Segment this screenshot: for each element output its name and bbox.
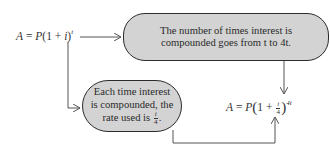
box-times-compounded: The number of times interest is compound…	[123, 13, 329, 61]
formula-quarterly-lhs: A	[226, 101, 233, 113]
box-times-compounded-line2: compounded goes from t to 4t.	[161, 37, 291, 50]
equals-sign: =	[233, 101, 245, 113]
fraction-denominator: 4	[277, 109, 281, 116]
fraction-i-over-4: i4	[276, 101, 280, 116]
box-rate-used: Each time interest is compounded, the ra…	[82, 80, 182, 132]
exponent: t	[71, 28, 73, 36]
box-rate-used-line1: Each time interest	[94, 86, 170, 99]
fraction-denominator: 4	[154, 119, 158, 126]
formula-original-lhs: A	[16, 30, 23, 42]
box-times-compounded-line1: The number of times interest is	[160, 25, 292, 38]
exponent: 4t	[286, 99, 291, 107]
equals-sign: =	[23, 30, 35, 42]
period: .	[159, 112, 162, 123]
box-rate-used-line2: is compounded, the	[91, 99, 174, 112]
one-plus: 1 +	[257, 101, 275, 113]
open-paren: (1 +	[42, 30, 64, 42]
rate-prefix: rate used is	[103, 112, 153, 123]
open-paren: (	[252, 99, 257, 115]
formula-original: A = P(1 + i)t	[16, 29, 73, 42]
box-rate-used-line3: rate used is i4.	[103, 111, 162, 126]
diagram-canvas: A = P(1 + i)t The number of times intere…	[0, 0, 330, 155]
formula-quarterly: A = P(1 + i4)4t	[226, 98, 292, 116]
fraction-i-over-4: i4	[154, 111, 158, 126]
